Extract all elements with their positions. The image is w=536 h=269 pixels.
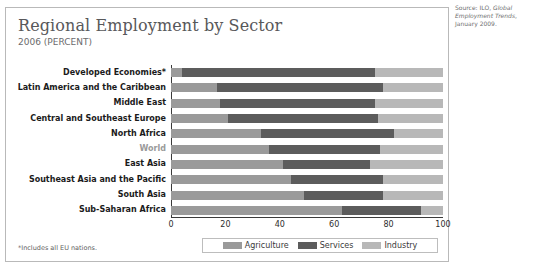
bar-segment-agriculture xyxy=(171,160,283,169)
bar-segment-industry xyxy=(383,175,443,184)
legend-item-services[interactable]: Services xyxy=(298,241,354,250)
bar-segment-agriculture xyxy=(171,68,182,77)
bar-segment-services xyxy=(291,175,383,184)
bar-segment-industry xyxy=(421,206,443,215)
x-tick-label: 0 xyxy=(168,220,173,229)
bar-segment-industry xyxy=(370,160,443,169)
source-prefix: Source: ILO, xyxy=(455,4,493,11)
bar-segment-agriculture xyxy=(171,175,291,184)
bar-segment-industry xyxy=(383,191,443,200)
category-label: World xyxy=(140,144,166,154)
bar-segment-services xyxy=(342,206,421,215)
stacked-bar xyxy=(171,129,443,138)
bar-segment-industry xyxy=(375,99,443,108)
page-title: Regional Employment by Sector xyxy=(18,16,282,35)
bar-row: Central and Southeast Europe xyxy=(171,114,443,123)
x-tick-label: 100 xyxy=(435,220,450,229)
stacked-bar xyxy=(171,83,443,92)
chart-footnote: *Includes all EU nations. xyxy=(18,244,97,252)
plot-area: Developed Economies*Latin America and th… xyxy=(171,65,443,218)
stacked-bar xyxy=(171,160,443,169)
category-label: Latin America and the Caribbean xyxy=(18,83,166,93)
category-label: Southeast Asia and the Pacific xyxy=(29,175,166,185)
x-tick-label: 40 xyxy=(275,220,285,229)
stacked-bar xyxy=(171,99,443,108)
stacked-bar xyxy=(171,175,443,184)
stacked-bar xyxy=(171,191,443,200)
stacked-bar xyxy=(171,68,443,77)
bar-segment-services xyxy=(217,83,383,92)
chart-subtitle: 2006 (PERCENT) xyxy=(18,37,282,47)
bar-segment-agriculture xyxy=(171,206,342,215)
category-label: South Asia xyxy=(118,190,166,200)
bar-segment-industry xyxy=(380,145,443,154)
bar-segment-services xyxy=(304,191,383,200)
legend-swatch-icon xyxy=(362,242,381,249)
legend-swatch-icon xyxy=(223,242,242,249)
bar-segment-agriculture xyxy=(171,114,228,123)
bar-segment-services xyxy=(269,145,381,154)
source-note: Source: ILO, Global Employment Trends, J… xyxy=(455,4,533,29)
bar-row: Sub-Saharan Africa xyxy=(171,206,443,215)
bar-row: South Asia xyxy=(171,191,443,200)
stacked-bar xyxy=(171,114,443,123)
x-tick-label: 20 xyxy=(220,220,230,229)
bar-segment-services xyxy=(228,114,378,123)
bar-segment-services xyxy=(283,160,370,169)
bar-segment-industry xyxy=(383,83,443,92)
bar-row: Latin America and the Caribbean xyxy=(171,83,443,92)
stacked-bar xyxy=(171,206,443,215)
bar-segment-agriculture xyxy=(171,191,304,200)
bar-row: Middle East xyxy=(171,99,443,108)
bar-segment-industry xyxy=(375,68,443,77)
bar-row: Southeast Asia and the Pacific xyxy=(171,175,443,184)
bar-segment-agriculture xyxy=(171,99,220,108)
bar-segment-services xyxy=(182,68,375,77)
x-tick-label: 60 xyxy=(329,220,339,229)
legend-label: Services xyxy=(320,241,354,250)
bar-segment-agriculture xyxy=(171,145,269,154)
bar-row: East Asia xyxy=(171,160,443,169)
category-label: North Africa xyxy=(111,129,166,139)
category-label: East Asia xyxy=(125,159,166,169)
bar-segment-services xyxy=(261,129,394,138)
bar-segment-agriculture xyxy=(171,129,261,138)
chart-figure: Regional Employment by Sector 2006 (PERC… xyxy=(5,7,449,262)
category-label: Central and Southeast Europe xyxy=(30,114,166,124)
bar-row: Developed Economies* xyxy=(171,68,443,77)
category-label: Middle East xyxy=(113,98,166,108)
x-tick-label: 80 xyxy=(384,220,394,229)
legend-label: Agriculture xyxy=(245,241,289,250)
bar-segment-industry xyxy=(378,114,443,123)
legend-item-agriculture[interactable]: Agriculture xyxy=(223,241,289,250)
legend-item-industry[interactable]: Industry xyxy=(362,241,417,250)
legend-label: Industry xyxy=(384,241,417,250)
bar-row: North Africa xyxy=(171,129,443,138)
category-label: Developed Economies* xyxy=(63,68,166,78)
bar-segment-industry xyxy=(394,129,443,138)
bar-row: World xyxy=(171,145,443,154)
title-block: Regional Employment by Sector 2006 (PERC… xyxy=(18,16,282,47)
chart-legend: AgricultureServicesIndustry xyxy=(202,238,438,253)
bar-segment-services xyxy=(220,99,375,108)
category-label: Sub-Saharan Africa xyxy=(79,205,166,215)
bar-segment-agriculture xyxy=(171,83,217,92)
stacked-bar xyxy=(171,145,443,154)
legend-swatch-icon xyxy=(298,242,317,249)
